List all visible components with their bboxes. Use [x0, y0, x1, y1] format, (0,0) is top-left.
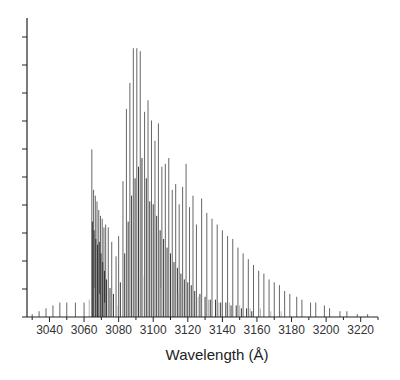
- x-axis: 3040306030803100312031403160318032003220: [22, 317, 378, 337]
- x-tick-label: 3200: [313, 323, 340, 337]
- x-axis-title: Wavelength (Å): [166, 346, 269, 363]
- x-tick-label: 3160: [244, 323, 271, 337]
- y-axis: [22, 18, 27, 317]
- x-tick-label: 3180: [278, 323, 305, 337]
- spectrum-chart: 3040306030803100312031403160318032003220…: [0, 0, 400, 380]
- x-tick-label: 3080: [105, 323, 132, 337]
- x-tick-label: 3140: [209, 323, 236, 337]
- x-tick-label: 3220: [347, 323, 374, 337]
- spectrum-lines: [32, 48, 367, 317]
- x-tick-label: 3120: [174, 323, 201, 337]
- x-tick-label: 3060: [71, 323, 98, 337]
- x-tick-label: 3100: [140, 323, 167, 337]
- x-tick-label: 3040: [36, 323, 63, 337]
